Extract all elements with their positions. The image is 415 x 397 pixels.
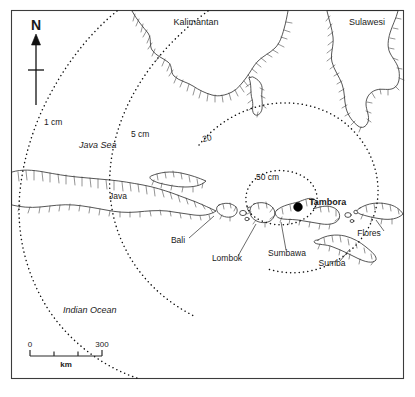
landmass-flores <box>357 203 403 224</box>
leader-sumbawa <box>281 222 286 250</box>
isopach-5cm-label: 5 cm <box>131 129 149 139</box>
landmass-islets-east <box>345 210 358 222</box>
north-label: N <box>31 17 41 33</box>
north-arrow-icon <box>28 34 44 105</box>
landmass-sulawesi <box>326 11 404 132</box>
region-label-sulawesi: Sulawesi <box>349 17 385 27</box>
scale-max-label: 300 <box>95 340 109 349</box>
map-figure: N 0 300 km 1 cm 5 cm 20 50 cm Java Sea I… <box>0 0 415 397</box>
sea-label-indian-ocean: Indian Ocean <box>63 305 117 315</box>
region-label-java: Java <box>109 191 127 201</box>
region-label-sumba: Sumba <box>319 258 346 268</box>
sea-label-java-sea: Java Sea <box>78 140 117 150</box>
isopach-50cm-label: 50 cm <box>256 172 279 182</box>
isopach-1cm-label: 1 cm <box>44 117 62 127</box>
landmass-bali <box>217 203 238 221</box>
region-label-sumbawa: Sumbawa <box>268 248 306 258</box>
landmass-kalimantan-spur <box>246 77 266 117</box>
region-label-flores: Flores <box>357 228 381 238</box>
region-label-lombok: Lombok <box>212 253 243 263</box>
scale-unit-label: km <box>60 360 72 369</box>
tambora-marker[interactable] <box>294 203 303 212</box>
map-canvas: N 0 300 km 1 cm 5 cm 20 50 cm Java Sea I… <box>0 0 415 397</box>
leader-bali <box>189 216 214 238</box>
region-label-kalimantan: Kalimantan <box>173 17 218 27</box>
leader-lombok <box>238 224 256 256</box>
scale-bar: 0 300 km <box>28 340 109 369</box>
region-label-bali: Bali <box>171 235 185 245</box>
scale-min-label: 0 <box>28 340 33 349</box>
tambora-label: Tambora <box>309 197 347 207</box>
isopach-20cm-label: 20 <box>201 132 213 144</box>
